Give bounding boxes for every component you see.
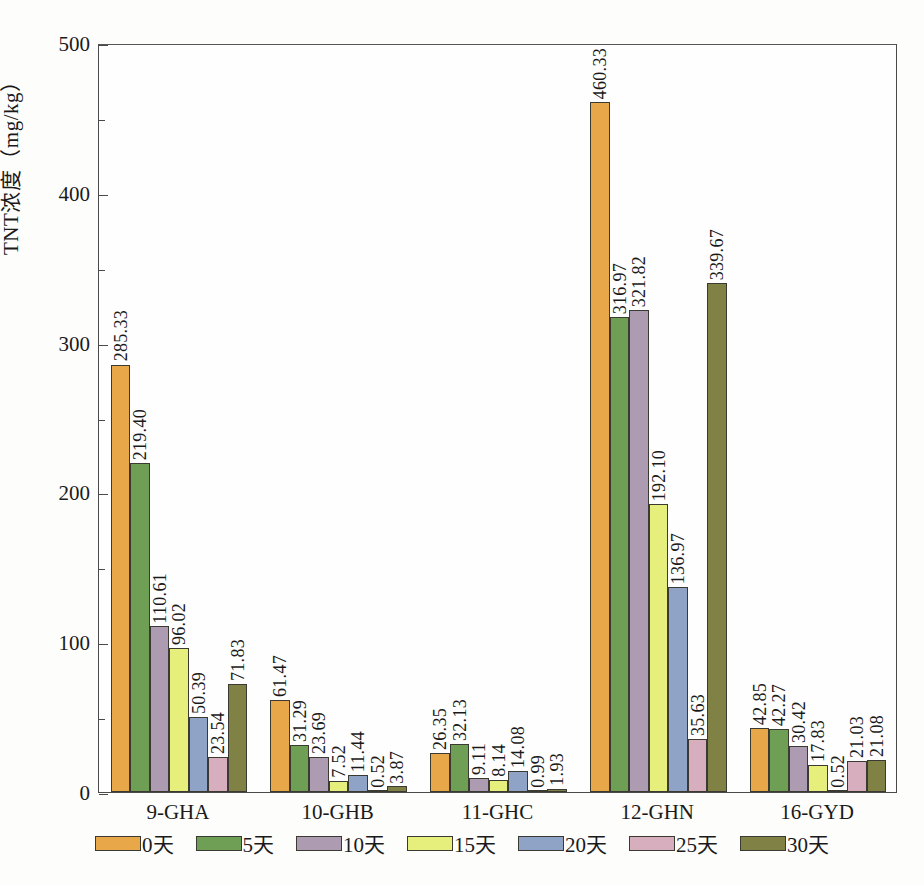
bar-10-GHB-15天[interactable] <box>329 781 349 792</box>
legend-item-25天[interactable]: 25天 <box>629 828 718 858</box>
bar-value-label: 14.08 <box>509 726 527 768</box>
bar-16-GYD-10天[interactable] <box>789 746 809 792</box>
bar-9-GHA-30天[interactable] <box>228 684 248 792</box>
bar-value-label: 17.83 <box>809 720 827 762</box>
legend-item-30天[interactable]: 30天 <box>740 828 829 858</box>
legend-item-10天[interactable]: 10天 <box>296 828 385 858</box>
bar-16-GYD-30天[interactable] <box>867 760 887 792</box>
legend-label: 20天 <box>565 828 607 858</box>
bar-9-GHA-5天[interactable] <box>130 463 150 792</box>
bar-10-GHB-0天[interactable] <box>270 700 290 792</box>
bar-10-GHB-5天[interactable] <box>290 745 310 792</box>
legend-label: 25天 <box>676 828 718 858</box>
bar-value-label: 32.13 <box>451 699 469 741</box>
y-axis-title: TNT浓度（mg/kg） <box>0 0 24 255</box>
bar-value-label: 26.35 <box>431 708 449 750</box>
bar-16-GYD-5天[interactable] <box>769 729 789 792</box>
bar-12-GHN-15天[interactable] <box>649 504 669 792</box>
bar-value-label: 460.33 <box>591 48 609 99</box>
bar-11-GHC-25天[interactable] <box>528 790 548 792</box>
legend-item-15天[interactable]: 15天 <box>407 828 496 858</box>
x-category-label-12-GHN: 12-GHN <box>621 800 695 825</box>
bar-value-label: 1.93 <box>548 753 566 786</box>
bar-11-GHC-30天[interactable] <box>547 789 567 792</box>
bar-10-GHB-20天[interactable] <box>348 775 368 792</box>
bar-12-GHN-20天[interactable] <box>668 587 688 792</box>
x-category-label-16-GYD: 16-GYD <box>780 800 854 825</box>
legend-swatch-icon <box>196 836 242 851</box>
bar-12-GHN-10天[interactable] <box>629 310 649 792</box>
bar-12-GHN-25天[interactable] <box>688 739 708 792</box>
bar-value-label: 285.33 <box>112 310 130 361</box>
bar-9-GHA-15天[interactable] <box>169 648 189 792</box>
y-tick-label-0: 0 <box>28 781 90 806</box>
x-category-label-11-GHC: 11-GHC <box>462 800 534 825</box>
legend-swatch-icon <box>407 836 453 851</box>
bar-11-GHC-20天[interactable] <box>508 771 528 792</box>
y-tick-500 <box>99 45 108 46</box>
y-tick-100 <box>99 644 108 645</box>
legend-item-0天[interactable]: 0天 <box>95 828 174 858</box>
bar-value-label: 316.97 <box>611 263 629 314</box>
bar-16-GYD-0天[interactable] <box>750 728 770 792</box>
y-tick-minor <box>99 569 105 570</box>
plot-area: 285.33219.40110.6196.0250.3923.5471.8361… <box>98 44 897 793</box>
bar-value-label: 71.83 <box>229 639 247 681</box>
bar-value-label: 42.85 <box>751 683 769 725</box>
bar-11-GHC-5天[interactable] <box>450 744 470 792</box>
legend-item-20天[interactable]: 20天 <box>518 828 607 858</box>
bar-11-GHC-0天[interactable] <box>430 753 450 792</box>
bar-value-label: 110.61 <box>151 573 169 624</box>
bar-value-label: 136.97 <box>669 533 687 584</box>
bar-value-label: 8.14 <box>490 744 508 777</box>
bar-16-GYD-20天[interactable] <box>828 790 848 792</box>
bar-value-label: 21.03 <box>848 716 866 758</box>
bar-value-label: 30.42 <box>790 701 808 743</box>
bar-16-GYD-15天[interactable] <box>808 765 828 792</box>
y-tick-label-100: 100 <box>28 631 90 656</box>
x-category-label-9-GHA: 9-GHA <box>146 800 209 825</box>
bar-11-GHC-10天[interactable] <box>469 778 489 792</box>
legend-label: 15天 <box>454 828 496 858</box>
bar-9-GHA-10天[interactable] <box>150 626 170 792</box>
bar-value-label: 61.47 <box>271 655 289 697</box>
legend-swatch-icon <box>95 836 141 851</box>
chart-legend: 0天5天10天15天20天25天30天 <box>0 828 924 858</box>
legend-item-5天[interactable]: 5天 <box>196 828 275 858</box>
y-tick-minor <box>99 719 105 720</box>
bar-value-label: 9.11 <box>470 743 488 775</box>
chart-figure: TNT浓度（mg/kg） 285.33219.40110.6196.0250.3… <box>0 0 924 886</box>
bar-12-GHN-5天[interactable] <box>610 317 630 792</box>
bar-value-label: 50.39 <box>190 672 208 714</box>
bar-10-GHB-25天[interactable] <box>368 790 388 792</box>
bar-value-label: 42.27 <box>770 684 788 726</box>
bar-value-label: 23.69 <box>310 712 328 754</box>
bar-10-GHB-10天[interactable] <box>309 757 329 792</box>
legend-label: 0天 <box>142 828 174 858</box>
y-tick-200 <box>99 494 108 495</box>
y-tick-400 <box>99 195 108 196</box>
bar-16-GYD-25天[interactable] <box>847 761 867 793</box>
y-tick-label-300: 300 <box>28 331 90 356</box>
y-tick-minor <box>99 420 105 421</box>
bar-9-GHA-0天[interactable] <box>111 365 131 792</box>
y-tick-minor <box>99 120 105 121</box>
bar-9-GHA-25天[interactable] <box>208 757 228 792</box>
bar-9-GHA-20天[interactable] <box>189 717 209 792</box>
legend-label: 10天 <box>343 828 385 858</box>
y-tick-0 <box>99 794 108 795</box>
bar-value-label: 96.02 <box>170 603 188 645</box>
legend-label: 30天 <box>787 828 829 858</box>
legend-swatch-icon <box>518 836 564 851</box>
legend-swatch-icon <box>296 836 342 851</box>
bar-11-GHC-15天[interactable] <box>489 780 509 792</box>
bar-10-GHB-30天[interactable] <box>387 786 407 792</box>
bar-12-GHN-30天[interactable] <box>707 283 727 792</box>
bar-12-GHN-0天[interactable] <box>590 102 610 792</box>
y-tick-minor <box>99 270 105 271</box>
legend-swatch-icon <box>740 836 786 851</box>
bar-value-label: 192.10 <box>650 450 668 501</box>
y-tick-label-200: 200 <box>28 481 90 506</box>
legend-swatch-icon <box>629 836 675 851</box>
bar-value-label: 11.44 <box>349 731 367 772</box>
